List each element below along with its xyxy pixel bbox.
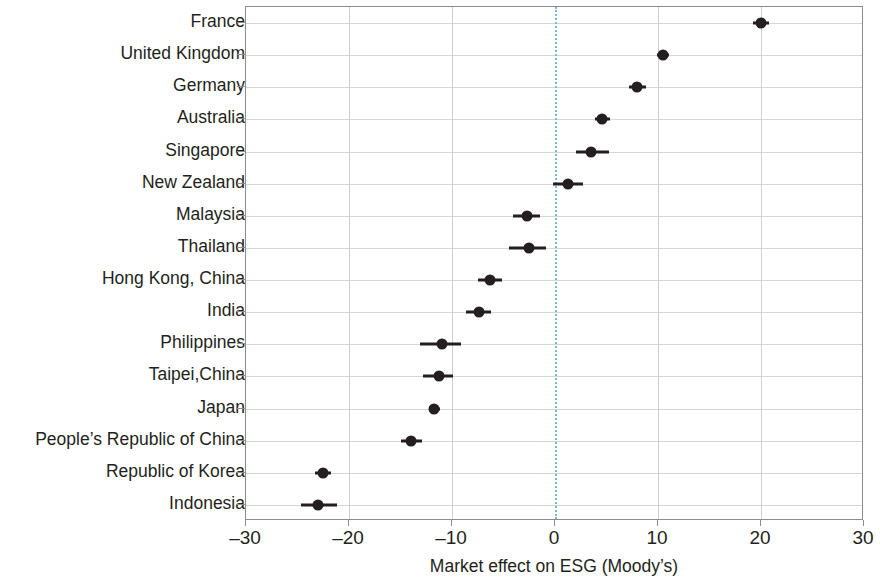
gridline-horizontal [246,248,862,249]
data-point [586,146,597,157]
y-axis-tick-mark [237,151,245,152]
gridline-horizontal [246,376,862,377]
data-point [597,114,608,125]
gridline-horizontal [246,152,862,153]
x-axis-tick-mark [657,520,658,526]
y-axis-tick-label: People’s Republic of China [13,431,245,449]
x-axis-tick-label: –30 [229,528,261,547]
gridline-horizontal [246,119,862,120]
y-axis-tick-label: Malaysia [13,206,245,224]
data-point [313,499,324,510]
y-axis-tick-label: Germany [13,77,245,95]
x-axis-tick-label: 20 [749,528,770,547]
x-axis-tick-label: 0 [549,528,560,547]
data-point [318,467,329,478]
x-axis-tick-mark [760,520,761,526]
y-axis-tick-mark [237,408,245,409]
gridline-vertical [761,7,762,519]
x-axis-tick-mark [348,520,349,526]
y-axis-tick-label: India [13,302,245,320]
y-axis-tick-mark [237,215,245,216]
y-axis-tick-label: Singapore [13,142,245,160]
x-axis-tick-label: –10 [435,528,467,547]
y-axis-tick-mark [237,118,245,119]
gridline-horizontal [246,505,862,506]
gridline-vertical [452,7,453,519]
y-axis-tick-mark [237,504,245,505]
y-axis-tick-label: United Kingdom [13,45,245,63]
data-point [429,403,440,414]
data-point [485,275,496,286]
gridline-horizontal [246,312,862,313]
data-point [756,18,767,29]
gridline-horizontal [246,23,862,24]
y-axis-tick-mark [237,375,245,376]
zero-line [555,7,557,519]
x-axis-tick-mark [863,520,864,526]
gridline-horizontal [246,280,862,281]
y-axis-tick-mark [237,472,245,473]
gridline-horizontal [246,441,862,442]
data-point [524,242,535,253]
data-point [405,435,416,446]
x-axis-tick-mark [554,520,555,526]
y-axis-tick-label: Taipei,China [13,366,245,384]
x-axis-tick-label: 10 [646,528,667,547]
y-axis-tick-mark [237,440,245,441]
data-point [563,178,574,189]
data-point [522,210,533,221]
gridline-vertical [658,7,659,519]
y-axis-tick-label: Thailand [13,238,245,256]
x-axis-title: Market effect on ESG (Moody’s) [245,556,863,577]
y-axis-tick-label: Australia [13,109,245,127]
gridline-horizontal [246,344,862,345]
y-axis-tick-label: Philippines [13,334,245,352]
y-axis-tick-label: France [13,13,245,31]
gridline-horizontal [246,473,862,474]
x-axis-tick-mark [245,520,246,526]
forest-plot-figure: FranceUnited KingdomGermanyAustraliaSing… [0,0,880,585]
y-axis-tick-mark [237,247,245,248]
data-point [632,82,643,93]
y-axis-tick-mark [237,183,245,184]
y-axis-tick-mark [237,22,245,23]
x-axis-tick-label: –20 [332,528,364,547]
y-axis-tick-mark [237,86,245,87]
y-axis-labels: FranceUnited KingdomGermanyAustraliaSing… [0,6,245,520]
y-axis-tick-label: Republic of Korea [13,463,245,481]
y-axis-tick-mark [237,279,245,280]
y-axis-tick-mark [237,54,245,55]
y-axis-tick-label: Japan [13,399,245,417]
gridline-horizontal [246,409,862,410]
data-point [658,50,669,61]
gridline-horizontal [246,55,862,56]
gridline-vertical [349,7,350,519]
y-axis-tick-label: New Zealand [13,174,245,192]
plot-area [245,6,863,520]
x-axis-tick-mark [451,520,452,526]
data-point [433,371,444,382]
y-axis-tick-mark [237,343,245,344]
data-point [473,307,484,318]
y-axis-tick-label: Indonesia [13,495,245,513]
gridline-horizontal [246,87,862,88]
y-axis-tick-label: Hong Kong, China [13,270,245,288]
y-axis-tick-mark [237,311,245,312]
data-point [436,339,447,350]
gridline-horizontal [246,216,862,217]
x-axis-tick-label: 30 [852,528,873,547]
